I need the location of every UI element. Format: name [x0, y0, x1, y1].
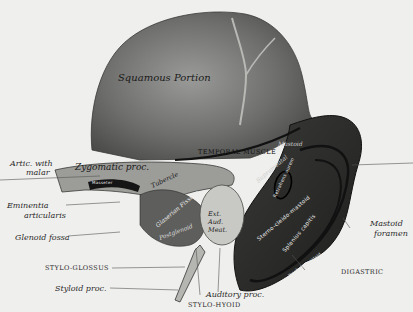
callout-auditory-proc: Auditory proc.: [206, 290, 264, 299]
callout-styloid-proc: Styloid proc.: [55, 284, 107, 293]
callout-digastric: Digastric: [341, 268, 384, 276]
label-mastoid-region: Mastoid: [278, 140, 303, 147]
label-ext-aud-meat: Ext. Aud. Meat.: [208, 210, 236, 234]
callout-artic-malar-2: malar: [26, 168, 50, 177]
styloid-process-shape: [175, 245, 205, 302]
callout-eminentia-1: Eminentia: [7, 201, 49, 210]
callout-stylo-glossus: Stylo-glossus: [45, 264, 109, 272]
label-squamous-portion: Squamous Portion: [118, 72, 211, 83]
callout-stylo-hyoid: Stylo-hyoid: [188, 301, 241, 309]
label-zygomatic-proc: Zygomatic proc.: [75, 162, 149, 172]
anatomy-figure: Squamous Portion Temporal muscle Zygomat…: [0, 0, 413, 312]
callout-mastoid-foramen-1: Mastoid: [370, 219, 403, 228]
callout-glenoid-fossa: Glenoid fossa: [15, 233, 70, 242]
callout-artic-malar-1: Artic. with: [10, 159, 53, 168]
callout-eminentia-2: articularis: [24, 211, 66, 220]
label-masseter: Masseter: [92, 180, 113, 185]
callout-mastoid-foramen-2: foramen: [374, 229, 408, 238]
label-temporal-muscle: Temporal muscle: [198, 148, 276, 156]
